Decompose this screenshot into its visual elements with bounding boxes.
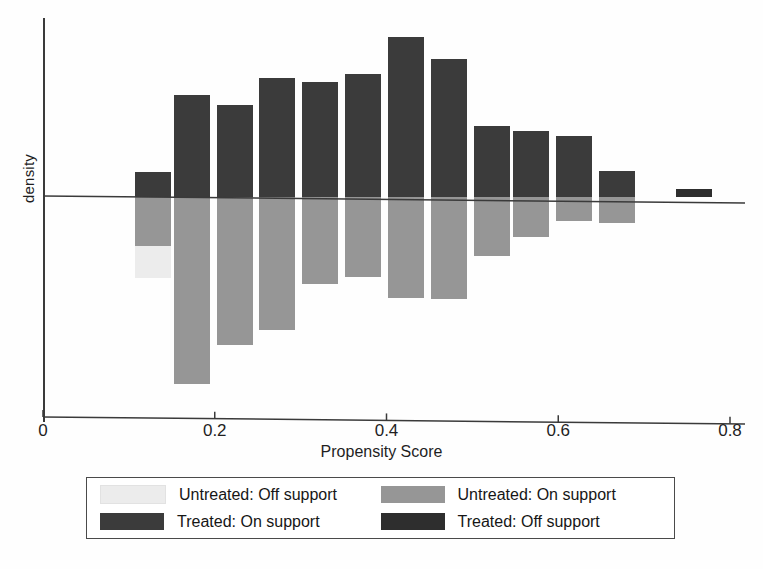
x-tick-label: 0.2 [185, 421, 245, 441]
legend-item-treated-off-support: Treated: Off support [381, 513, 674, 531]
legend-item-untreated-off-support: Untreated: Off support [87, 485, 381, 504]
x-tick-label: 0.4 [357, 421, 417, 441]
legend-label-treated-off-support: Treated: Off support [458, 513, 600, 531]
x-axis-title: Propensity Score [0, 443, 763, 461]
zero-baseline-line [43, 196, 745, 203]
legend-row: Untreated: Off support Untreated: On sup… [87, 481, 674, 508]
legend-swatch-treated-on-support [100, 513, 164, 530]
legend-swatch-untreated-off-support [100, 485, 166, 504]
y-axis-title: density [20, 139, 37, 219]
legend-label-untreated-on-support: Untreated: On support [458, 486, 616, 504]
legend-row: Treated: On support Treated: Off support [87, 508, 674, 535]
legend-label-untreated-off-support: Untreated: Off support [179, 486, 337, 504]
x-tick-label: 0.8 [700, 421, 760, 441]
x-tick-label: 0.6 [528, 421, 588, 441]
plot-area: density Propensity Score 00.20.40.60.8 [0, 0, 763, 470]
x-axis-svg [0, 0, 763, 470]
legend-swatch-untreated-on-support [381, 486, 445, 503]
legend: Untreated: Off support Untreated: On sup… [86, 477, 675, 539]
legend-item-treated-on-support: Treated: On support [87, 513, 381, 531]
propensity-score-density-figure: density Propensity Score 00.20.40.60.8 U… [0, 0, 763, 569]
legend-swatch-treated-off-support [381, 513, 445, 530]
legend-item-untreated-on-support: Untreated: On support [381, 486, 674, 504]
x-tick-label: 0 [13, 421, 73, 441]
legend-label-treated-on-support: Treated: On support [177, 513, 320, 531]
